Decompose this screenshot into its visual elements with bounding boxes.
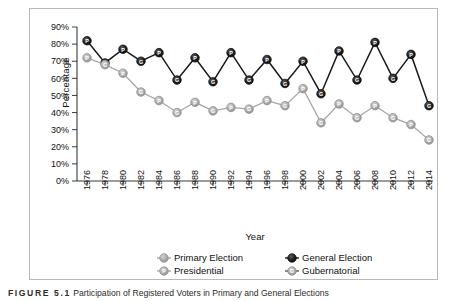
legend-item-primary-election[interactable]: Primary Election [157, 252, 243, 263]
y-tick-label: 60% [51, 74, 69, 84]
legend-item-presidential[interactable]: PPresidential [157, 265, 224, 276]
data-point-marker: P [265, 98, 269, 104]
data-point-marker: P [301, 59, 305, 65]
data-point-marker: G [139, 89, 143, 95]
data-point-marker: G [211, 108, 215, 114]
x-tick-label: 1976 [82, 170, 92, 190]
data-point-marker: G [211, 79, 215, 85]
x-tick-label: 1980 [118, 170, 128, 190]
data-point-marker: G [319, 91, 323, 97]
y-tick-label: 30% [51, 125, 69, 135]
data-point-marker: G [247, 106, 251, 112]
legend-label: Primary Election [174, 252, 243, 263]
x-tick-label: 2008 [370, 170, 380, 190]
data-point-marker: P [193, 100, 197, 106]
data-point-marker: P [301, 86, 305, 92]
data-point-marker: G [283, 81, 287, 87]
data-point-marker: P [373, 40, 377, 46]
data-point-marker: G [391, 76, 395, 82]
x-tick-label: 1982 [136, 170, 146, 190]
data-point-marker: P [85, 38, 89, 44]
data-point-marker: P [373, 103, 377, 109]
x-tick-label: 1986 [172, 170, 182, 190]
y-tick-label: 50% [51, 91, 69, 101]
data-point-marker: P [229, 50, 233, 56]
chart-plot: 0%10%20%30%40%50%60%70%80%90% 1976197819… [30, 9, 439, 281]
data-point-marker: P [193, 55, 197, 61]
x-tick-label: 1988 [190, 170, 200, 190]
y-tick-label: 80% [51, 39, 69, 49]
data-point-marker: P [337, 48, 341, 54]
x-tick-label: 2000 [298, 170, 308, 190]
data-point-marker: P [121, 47, 125, 53]
data-point-marker: P [157, 50, 161, 56]
y-tick-label: 90% [51, 22, 69, 32]
y-tick-label: 70% [51, 56, 69, 66]
data-point-marker: P [265, 57, 269, 63]
x-tick-label: 2002 [316, 170, 326, 190]
legend-label: Gubernatorial [302, 265, 360, 276]
y-tick-label: 0% [56, 176, 69, 186]
series-general-election: PGPGPGPGPGPGPGPGPGPG [83, 36, 434, 110]
x-tick-label: 1990 [208, 170, 218, 190]
figure-caption-text: Participation of Registered Voters in Pr… [73, 288, 329, 298]
x-tick-label: 2014 [424, 170, 434, 190]
series-primary-election: PGPGPGPGPGPGPGPGPGPG [83, 54, 434, 145]
legend-item-general-election[interactable]: General Election [285, 252, 372, 263]
x-tick-label: 2006 [352, 170, 362, 190]
data-point-marker: G [355, 115, 359, 121]
x-axis-title: Year [245, 231, 264, 242]
y-tick-group: 0%10%20%30%40%50%60%70%80%90% [51, 22, 77, 186]
data-point-marker: P [121, 71, 125, 77]
chart-legend: Primary ElectionGeneral ElectionPPreside… [157, 252, 372, 276]
legend-marker-letter: G [290, 268, 294, 274]
data-point-marker: G [427, 137, 431, 143]
data-point-marker: P [409, 122, 413, 128]
data-point-marker: P [85, 55, 89, 61]
x-tick-label: 1984 [154, 170, 164, 190]
data-point-marker: G [283, 103, 287, 109]
y-tick-label: 10% [51, 159, 69, 169]
x-tick-group: 1976197819801982198419861988199019921994… [82, 170, 434, 190]
x-tick-label: 2010 [388, 170, 398, 190]
y-tick-label: 40% [51, 108, 69, 118]
y-tick-label: 20% [51, 142, 69, 152]
data-point-marker: G [175, 110, 179, 116]
data-point-marker: G [427, 103, 431, 109]
legend-label: General Election [302, 252, 372, 263]
x-tick-label: 1998 [280, 170, 290, 190]
data-point-marker: G [247, 77, 251, 83]
data-point-marker: G [175, 77, 179, 83]
figure-caption: FIGURE 5.1 Participation of Registered V… [8, 288, 458, 301]
x-tick-label: 2004 [334, 170, 344, 190]
legend-label: Presidential [174, 265, 224, 276]
x-tick-label: 1978 [100, 170, 110, 190]
x-tick-label: 1994 [244, 170, 254, 190]
figure-caption-label: FIGURE 5.1 [8, 288, 71, 298]
legend-marker-letter: P [162, 268, 166, 274]
data-point-marker: G [391, 115, 395, 121]
data-point-marker: G [103, 62, 107, 68]
data-point-marker: P [157, 98, 161, 104]
data-point-marker: P [337, 101, 341, 107]
data-point-marker: P [229, 105, 233, 111]
data-point-marker: G [139, 59, 143, 65]
series-group: PGPGPGPGPGPGPGPGPGPGPGPGPGPGPGPGPGPGPGPG [83, 36, 434, 144]
figure-frame: Percentage 0%10%20%30%40%50%60%70%80%90%… [29, 8, 438, 280]
x-tick-label: 1996 [262, 170, 272, 190]
x-tick-label: 1992 [226, 170, 236, 190]
data-point-marker: G [355, 77, 359, 83]
data-point-marker: G [319, 120, 323, 126]
legend-item-gubernatorial[interactable]: GGubernatorial [285, 265, 360, 276]
x-tick-label: 2012 [406, 170, 416, 190]
data-point-marker: P [409, 52, 413, 58]
